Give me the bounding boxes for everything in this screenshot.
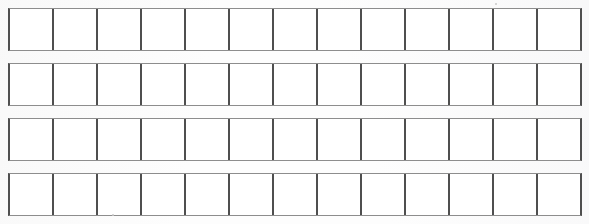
grid-cell[interactable] [186,174,230,215]
grid-cell[interactable] [98,9,142,50]
grid-cell[interactable] [406,119,450,160]
grid-cell[interactable] [538,174,580,215]
grid-cell[interactable] [10,64,54,105]
grid-cell[interactable] [362,119,406,160]
grid-cell[interactable] [274,64,318,105]
grid-cell[interactable] [54,64,98,105]
grid-cell[interactable] [494,119,538,160]
scan-speck [495,3,497,5]
grid-cell[interactable] [362,64,406,105]
grid-cell[interactable] [318,64,362,105]
grid-cell[interactable] [10,9,54,50]
grid-cell[interactable] [538,9,580,50]
grid-cell[interactable] [230,119,274,160]
grid-cell[interactable] [142,174,186,215]
grid-row [8,173,582,216]
grid-cell[interactable] [274,119,318,160]
grid-cell[interactable] [230,64,274,105]
grid-cell[interactable] [98,174,142,215]
grid-cell[interactable] [10,119,54,160]
grid-cell[interactable] [450,119,494,160]
grid-cell[interactable] [230,174,274,215]
grid-cell[interactable] [142,119,186,160]
grid-cell[interactable] [274,174,318,215]
grid-cell[interactable] [538,64,580,105]
grid-cell[interactable] [10,174,54,215]
grid-cell[interactable] [230,9,274,50]
grid-cell[interactable] [98,64,142,105]
grid-cell[interactable] [406,9,450,50]
grid-cell[interactable] [538,119,580,160]
grid-cell[interactable] [450,9,494,50]
grid-cell[interactable] [450,64,494,105]
grid-cell[interactable] [142,64,186,105]
grid-cell[interactable] [98,119,142,160]
grid-row [8,63,582,106]
grid-cell[interactable] [318,9,362,50]
grid-cell[interactable] [494,174,538,215]
grid-row [8,118,582,161]
grid-cell[interactable] [362,174,406,215]
grid-cell[interactable] [54,119,98,160]
grid-cell[interactable] [186,119,230,160]
grid-cell[interactable] [142,9,186,50]
grid-cell[interactable] [54,174,98,215]
worksheet-page [0,0,589,224]
grid-cell[interactable] [318,174,362,215]
grid-cell[interactable] [54,9,98,50]
grid-cell[interactable] [318,119,362,160]
grid-cell[interactable] [186,64,230,105]
grid-cell[interactable] [362,9,406,50]
grid-cell[interactable] [494,64,538,105]
grid-row [8,8,582,51]
grid-cell[interactable] [186,9,230,50]
grid-cell[interactable] [274,9,318,50]
grid-cell[interactable] [406,64,450,105]
grid-cell[interactable] [494,9,538,50]
grid-cell[interactable] [450,174,494,215]
grid-cell[interactable] [406,174,450,215]
